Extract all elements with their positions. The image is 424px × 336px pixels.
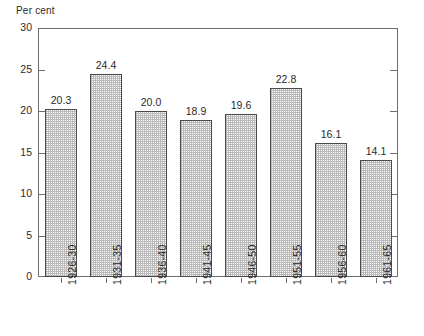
x-axis-tick-label: 1956-60 [336,244,348,285]
bar-value-label: 19.6 [216,99,266,111]
bar-value-label: 18.9 [171,105,221,117]
y-axis-tick-label: 25 [0,63,32,75]
y-axis-tick-label: 10 [0,187,32,199]
x-axis-tick-mark [376,278,377,283]
x-axis-tick-label: 1936-40 [156,244,168,285]
x-axis-tick-label: 1931-35 [111,244,123,285]
y-axis-tick-mark [38,194,45,195]
x-axis-tick-label: 1961-65 [381,244,393,285]
y-axis-tick-mark [38,153,45,154]
bar-value-label: 14.1 [351,145,401,157]
y-axis-tick-label: 30 [0,21,32,33]
y-axis-tick-mark [38,236,45,237]
y-axis-tick-mark [38,70,45,71]
y-axis-tick-label: 20 [0,104,32,116]
x-axis-tick-mark [106,278,107,283]
bar-value-label: 16.1 [306,128,356,140]
y-axis-tick-label: 5 [0,229,32,241]
x-axis-tick-mark [151,278,152,283]
x-axis-tick-label: 1926-30 [66,244,78,285]
y-axis-tick-label: 15 [0,146,32,158]
bar-value-label: 20.0 [126,96,176,108]
bar-value-label: 24.4 [81,59,131,71]
x-axis-tick-mark [196,278,197,283]
y-axis-tick-label: 0 [0,270,32,282]
x-axis-tick-mark [61,278,62,283]
x-axis-tick-label: 1941-45 [201,244,213,285]
y-axis-title: Per cent [16,5,55,16]
bar-value-label: 20.3 [36,94,86,106]
bar-chart: Per cent 051015202530 20.324.420.018.919… [0,0,424,336]
y-axis-tick-mark [38,111,45,112]
y-axis-tick-mark-right [390,70,398,71]
x-axis-tick-mark [331,278,332,283]
x-axis-tick-label: 1951-55 [291,244,303,285]
x-axis-tick-label: 1946-50 [246,244,258,285]
x-axis-tick-mark [286,278,287,283]
y-axis-tick-mark-right [390,111,398,112]
bar-value-label: 22.8 [261,73,311,85]
x-axis-tick-mark [241,278,242,283]
